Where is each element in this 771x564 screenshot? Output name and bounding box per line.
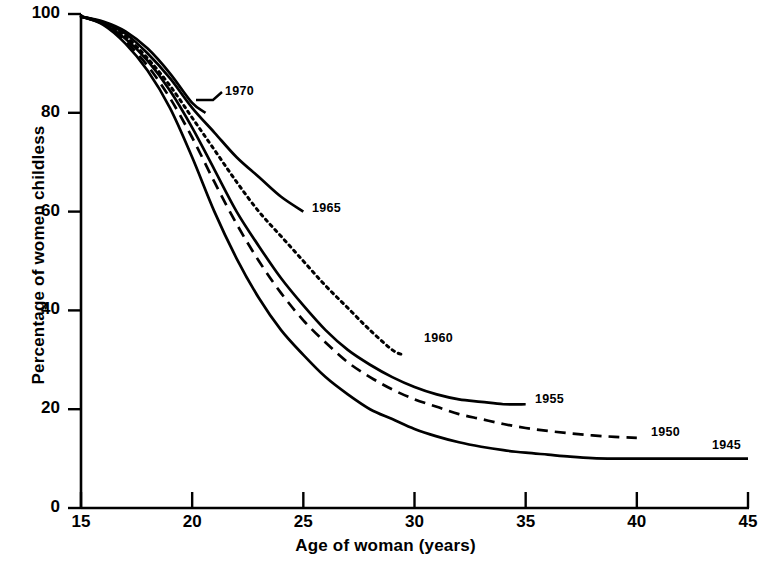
series-label-1965: 1965 xyxy=(312,201,341,215)
series-line-1945 xyxy=(81,16,748,458)
y-tick-label: 100 xyxy=(8,3,60,23)
x-tick-label: 35 xyxy=(502,512,550,532)
y-tick-label: 80 xyxy=(8,102,60,122)
series-label-1970: 1970 xyxy=(225,84,254,98)
label-leader-lines xyxy=(196,92,222,100)
x-tick-label: 45 xyxy=(724,512,771,532)
y-tick-label: 20 xyxy=(8,398,60,418)
x-tick-label: 25 xyxy=(279,512,327,532)
x-axis-ticks xyxy=(81,492,748,508)
chart-plot-area xyxy=(0,0,771,564)
series-label-1960: 1960 xyxy=(424,331,453,345)
series-label-1945: 1945 xyxy=(712,438,741,452)
x-tick-label: 20 xyxy=(168,512,216,532)
series-line-1965 xyxy=(81,16,303,211)
chart-container: Age of woman (years) Percentage of women… xyxy=(0,0,771,564)
x-axis-title: Age of woman (years) xyxy=(0,536,771,556)
x-tick-label: 40 xyxy=(613,512,661,532)
series-line-1960 xyxy=(81,16,403,354)
y-tick-label: 60 xyxy=(8,201,60,221)
leader-line-1970 xyxy=(196,92,222,100)
data-series-group xyxy=(81,16,748,458)
y-axis-title: Percentage of women childless xyxy=(29,90,49,420)
y-tick-label: 0 xyxy=(8,497,60,517)
x-tick-label: 30 xyxy=(391,512,439,532)
y-tick-label: 40 xyxy=(8,299,60,319)
series-label-1950: 1950 xyxy=(651,425,680,439)
y-axis-ticks xyxy=(68,14,81,508)
series-label-1955: 1955 xyxy=(535,392,564,406)
x-tick-label: 15 xyxy=(57,512,105,532)
